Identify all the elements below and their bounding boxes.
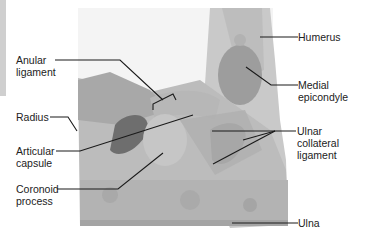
- label-line: Articular: [16, 145, 55, 157]
- label-coronoid-process: Coronoid process: [16, 183, 59, 207]
- label-line: ligament: [16, 66, 56, 78]
- label-line: epicondyle: [298, 91, 348, 103]
- label-line: Anular: [16, 54, 56, 66]
- label-line: process: [16, 195, 59, 207]
- label-articular-capsule: Articular capsule: [16, 145, 55, 169]
- label-line: Coronoid: [16, 183, 59, 195]
- label-line: Ulnar: [297, 125, 339, 137]
- label-line: Medial: [298, 79, 348, 91]
- label-anular-ligament: Anular ligament: [16, 54, 56, 78]
- label-radius: Radius: [16, 111, 49, 123]
- label-ulnar-collateral-ligament: Ulnar collateral ligament: [297, 125, 339, 161]
- label-line: ligament: [297, 149, 339, 161]
- label-line: capsule: [16, 157, 55, 169]
- label-ulna: Ulna: [298, 217, 320, 229]
- label-humerus: Humerus: [298, 31, 341, 43]
- label-line: collateral: [297, 137, 339, 149]
- label-medial-epicondyle: Medial epicondyle: [298, 79, 348, 103]
- label-line: Ulna: [298, 217, 320, 229]
- label-line: Humerus: [298, 31, 341, 43]
- label-line: Radius: [16, 111, 49, 123]
